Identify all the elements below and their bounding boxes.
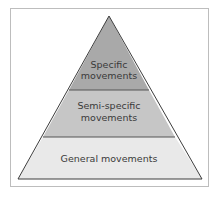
tier-general-label: General movements — [61, 153, 158, 164]
tier-semi-specific-label-line2: movements — [81, 112, 137, 123]
pyramid-diagram: Specific movements Semi-specific movemen… — [0, 0, 222, 197]
tier-specific-label-line2: movements — [81, 70, 137, 81]
tier-semi-specific-label-line1: Semi-specific — [77, 100, 140, 111]
tier-specific-label-line1: Specific — [91, 59, 128, 70]
